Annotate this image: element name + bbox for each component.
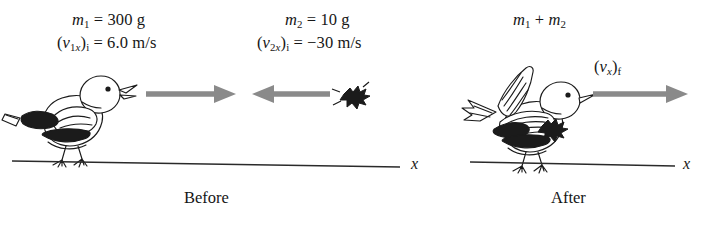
arrow-right-icon-after [593, 85, 688, 103]
arrow-right-icon-bird-before [146, 85, 236, 103]
before-axis-label: x [411, 155, 418, 173]
before-velocity1-label: (v1x)i = 6.0 m/s [57, 33, 156, 53]
bug-illustration-before [332, 82, 370, 109]
after-combined-mass-label: m1 + m2 [513, 10, 566, 30]
bird-illustration-after [462, 67, 596, 173]
after-axis-label: x [683, 155, 690, 173]
after-scene [460, 62, 708, 177]
ground-line-after [470, 162, 675, 166]
after-caption: After [551, 188, 586, 208]
before-mass2-label: m2 = 10 g [285, 10, 350, 30]
before-scene [0, 62, 440, 177]
ground-line-before [12, 161, 400, 167]
arrow-left-icon-bug-before [252, 85, 330, 103]
physics-figure-inelastic-collision: m1 = 300 g (v1x)i = 6.0 m/s m2 = 10 g (v… [0, 0, 708, 226]
before-caption: Before [184, 188, 229, 208]
before-mass1-label: m1 = 300 g [72, 10, 145, 30]
before-velocity2-label: (v2x)i = −30 m/s [257, 33, 362, 53]
bird-illustration-before [2, 76, 137, 167]
